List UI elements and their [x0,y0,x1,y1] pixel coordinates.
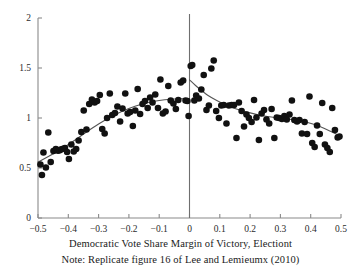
regression-discontinuity-figure: 00.511.52−0.5−0.4−0.3−0.2−0.100.10.20.30… [0,0,361,277]
data-point [223,120,230,127]
data-point [268,106,275,113]
data-point [39,172,46,179]
x-tick-label: −0.3 [90,224,107,234]
y-tick-label: 1 [26,113,31,123]
data-point [149,99,156,106]
data-point [289,97,296,104]
data-point [68,141,75,148]
data-point [206,102,213,109]
x-tick-label: 0.5 [335,224,347,234]
y-tick-label: 1.5 [19,63,31,73]
x-tick-label: −0.5 [29,224,46,234]
data-point [83,126,90,133]
x-tick-label: 0.4 [305,224,317,234]
data-point [64,149,71,156]
data-point [112,110,119,117]
data-point [200,72,207,79]
data-point [236,99,243,106]
data-point [155,105,162,112]
y-tick-label: 0 [26,213,31,223]
data-point [304,131,311,138]
data-point [157,76,164,83]
data-point [185,113,192,120]
data-point [73,146,80,153]
x-tick-label: −0.4 [60,224,77,234]
x-tick-label: 0.3 [274,224,286,234]
data-point [45,129,52,136]
data-point [319,100,326,107]
data-point [117,118,124,125]
data-point [271,135,278,142]
data-point [248,119,255,126]
data-point [213,108,220,115]
data-point [216,115,223,122]
data-point [94,98,101,105]
data-point [107,90,114,97]
data-point [306,93,313,100]
data-point [189,62,196,69]
data-point [119,105,126,112]
data-point [122,90,129,97]
x-tick-label: 0.2 [244,224,256,234]
x-tick-label: 0.1 [214,224,226,234]
data-point [336,133,343,140]
data-point [144,105,151,112]
data-point [137,111,144,118]
data-point [332,127,339,134]
data-point [311,144,318,151]
data-point [134,86,141,93]
data-point [316,131,323,138]
figure-note: Note: Replicate figure 16 of Lee and Lem… [0,254,361,265]
data-point [210,57,217,64]
data-point [47,159,54,166]
x-tick-label: −0.1 [151,224,168,234]
x-axis-title: Democratic Vote Share Margin of Victory,… [0,238,361,249]
data-point [251,97,258,104]
x-tick-label: 0 [187,224,192,234]
data-point [162,108,169,115]
data-point [326,149,333,156]
data-point [241,123,248,130]
y-tick-label: 0.5 [19,163,31,173]
data-point [75,137,82,144]
data-point [173,106,180,113]
data-point [261,107,268,114]
data-point [266,120,273,127]
data-point [208,65,215,72]
y-tick-label: 2 [26,13,31,23]
data-point [253,114,260,121]
data-point [43,164,50,171]
data-point [286,111,293,118]
data-point [101,130,108,137]
data-point [80,107,87,114]
data-point [130,123,137,130]
data-point [152,91,159,98]
data-point [184,98,191,105]
data-point [66,156,73,163]
data-point [196,95,203,102]
data-point [180,77,187,84]
data-point [175,97,182,104]
data-point [233,135,240,142]
data-point [256,137,263,144]
scatter-plot-canvas: 00.511.52−0.5−0.4−0.3−0.2−0.100.10.20.30… [0,0,361,277]
data-point [314,122,321,129]
x-tick-label: −0.2 [120,224,137,234]
data-point [97,92,104,99]
data-point [165,83,172,90]
data-point [40,149,47,156]
data-point [198,86,205,93]
data-point [329,105,336,112]
data-point [301,119,308,126]
